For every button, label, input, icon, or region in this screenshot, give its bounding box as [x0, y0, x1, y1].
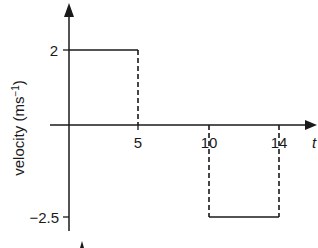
x-tick-label-5: 5 [134, 134, 142, 151]
x-axis-arrow-icon [305, 120, 317, 130]
y-axis-arrow-icon [64, 3, 74, 17]
velocity-time-graph: 2 −2.5 5 10 14 t velocity (ms−1) [0, 0, 318, 248]
y-tick-label-neg2-5: −2.5 [29, 209, 59, 226]
cropped-arrow-icon [80, 241, 84, 248]
y-tick-label-2: 2 [50, 42, 58, 59]
y-axis-label: velocity (ms−1) [10, 80, 27, 176]
x-axis-label: t [312, 134, 317, 151]
